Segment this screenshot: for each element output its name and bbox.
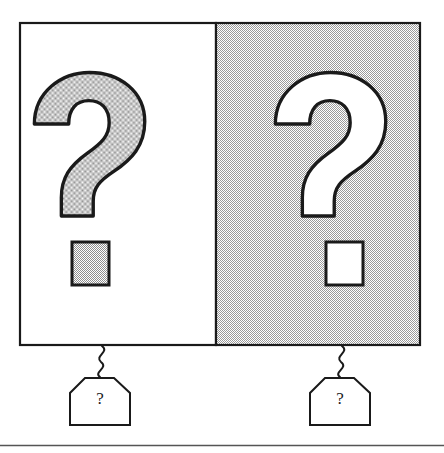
- spring-connector-icon: [98, 346, 104, 377]
- right-panel-tag[interactable]: ?: [310, 346, 370, 425]
- left-panel[interactable]: [20, 23, 216, 345]
- right-panel[interactable]: [216, 23, 420, 345]
- two-panel-question-figure: ? ?: [0, 0, 444, 453]
- spring-connector-icon: [338, 346, 344, 377]
- question-mark-dot: [326, 242, 363, 285]
- left-panel-tag[interactable]: ?: [70, 346, 130, 425]
- left-panel-background: [20, 23, 216, 345]
- figure-canvas: ? ?: [0, 0, 444, 453]
- question-mark-dot: [72, 242, 109, 285]
- tag-label: ?: [336, 389, 344, 408]
- tag-label: ?: [96, 389, 104, 408]
